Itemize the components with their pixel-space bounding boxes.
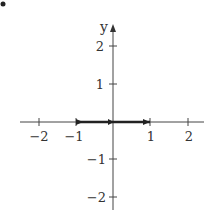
y-tick-label: 2 [96,39,104,54]
segment-arrow-icon [143,119,150,125]
y-axis-label: y [99,19,108,35]
bullet-icon [1,2,6,7]
x-tick-label: −2 [29,129,48,144]
plot: −2 −1 1 2 2 1 −1 −2 y [0,0,204,215]
y-tick-label: 1 [96,77,104,92]
y-axis-arrow-icon [110,24,116,32]
x-tick-label: 1 [147,129,155,144]
y-tick-label: −1 [87,152,106,167]
x-tick-label: −1 [64,129,83,144]
y-tick-label: −2 [87,190,106,205]
segment-arrow-icon [76,119,83,125]
x-tick-label: 2 [185,129,193,144]
